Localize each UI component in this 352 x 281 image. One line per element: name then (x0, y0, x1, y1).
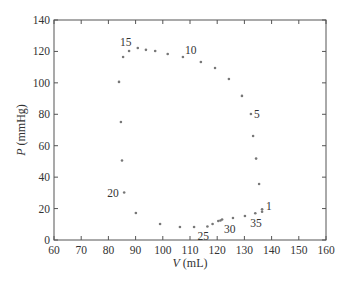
data-point-marker (255, 157, 258, 160)
data-point-marker (136, 47, 139, 50)
x-tick-label: 160 (317, 244, 335, 256)
y-tick-label: 0 (44, 234, 50, 246)
data-point-marker (135, 212, 138, 215)
point-index-label: 1 (266, 200, 272, 212)
y-tick-label: 40 (39, 171, 51, 183)
data-point-marker (241, 95, 244, 98)
data-point-marker (182, 56, 185, 59)
x-tick-label: 120 (209, 244, 227, 256)
point-index-label: 20 (107, 187, 119, 199)
data-point-marker (123, 191, 126, 194)
data-point-marker (145, 49, 148, 52)
y-axis-ticks: 020406080100120140 (33, 14, 326, 246)
data-point-marker (118, 81, 121, 84)
y-tick-label: 20 (39, 203, 51, 215)
data-point-marker (193, 226, 196, 229)
y-tick-label: 140 (33, 14, 51, 26)
data-point-marker (211, 223, 214, 226)
x-axis-title: V (mL) (173, 256, 208, 270)
data-point-marker (206, 225, 209, 228)
data-point-marker (228, 78, 231, 81)
x-tick-label: 140 (263, 244, 281, 256)
point-index-label: 35 (250, 217, 262, 229)
y-tick-label: 100 (33, 77, 51, 89)
data-point-marker (154, 50, 157, 53)
x-tick-label: 100 (154, 244, 172, 256)
point-index-label: 15 (120, 36, 132, 48)
x-tick-label: 90 (130, 244, 142, 256)
data-point-marker (261, 208, 264, 211)
data-point-marker (261, 210, 264, 213)
data-point-marker (121, 159, 124, 162)
data-point-marker (254, 212, 257, 215)
data-point-marker (232, 217, 235, 220)
point-annotations: 15101520253035 (107, 36, 272, 243)
point-index-label: 10 (185, 44, 197, 56)
x-tick-label: 110 (182, 244, 199, 256)
point-index-label: 25 (197, 230, 209, 242)
data-point-marker (166, 53, 169, 56)
data-point-marker (252, 135, 255, 138)
y-tick-label: 120 (33, 45, 51, 57)
data-point-marker (217, 220, 220, 223)
y-axis-title: P (mmHg) (14, 104, 28, 157)
data-point-marker (214, 67, 217, 70)
x-tick-label: 70 (75, 244, 87, 256)
data-point-marker (258, 183, 261, 186)
data-point-marker (250, 113, 253, 116)
data-point-marker (159, 223, 162, 226)
data-point-marker (128, 50, 131, 53)
data-point-marker (221, 218, 224, 221)
x-tick-label: 150 (290, 244, 308, 256)
x-tick-label: 60 (48, 244, 60, 256)
data-point-marker (179, 226, 182, 229)
point-index-label: 30 (224, 223, 236, 235)
data-points (118, 47, 264, 229)
y-tick-label: 80 (39, 108, 51, 120)
pv-loop-chart: 60708090100110120130140150160 0204060801… (0, 0, 352, 281)
y-tick-label: 60 (39, 140, 51, 152)
data-point-marker (200, 61, 203, 64)
data-point-marker (122, 56, 125, 59)
point-index-label: 5 (254, 108, 260, 120)
x-tick-label: 130 (236, 244, 254, 256)
data-point-marker (244, 215, 247, 218)
data-point-marker (120, 121, 123, 124)
x-tick-label: 80 (103, 244, 115, 256)
